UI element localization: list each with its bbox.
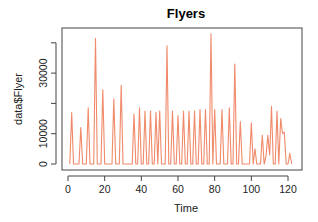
y-tick-label: 10000 bbox=[37, 119, 49, 148]
y-tick-label: 0 bbox=[37, 161, 49, 167]
x-tick-label: 20 bbox=[99, 183, 111, 195]
x-tick-label: 40 bbox=[135, 183, 147, 195]
x-tick-label: 120 bbox=[279, 183, 297, 195]
y-axis: 01000030000 bbox=[37, 43, 56, 167]
line-chart: Flyers 01000030000 020406080100120 Time … bbox=[0, 0, 318, 222]
x-axis: 020406080100120 bbox=[65, 176, 297, 195]
x-tick-label: 0 bbox=[65, 183, 71, 195]
x-tick-label: 100 bbox=[243, 183, 261, 195]
x-tick-label: 60 bbox=[172, 183, 184, 195]
y-tick-label: 30000 bbox=[37, 58, 49, 87]
chart-title: Flyers bbox=[167, 6, 205, 21]
x-tick-label: 80 bbox=[209, 183, 221, 195]
y-axis-label: data$Flyer bbox=[12, 73, 24, 125]
x-axis-label: Time bbox=[174, 202, 198, 214]
data-line bbox=[70, 34, 292, 164]
